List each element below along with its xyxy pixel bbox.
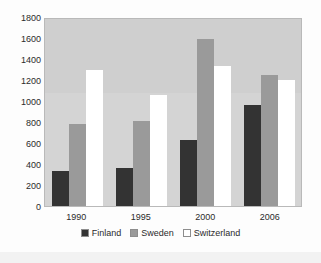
legend-entry-switzerland[interactable]: Switzerland [183, 228, 241, 238]
legend-label: Sweden [141, 228, 174, 238]
bar-finland-2000 [180, 140, 197, 206]
plot-area [44, 18, 302, 207]
legend-swatch-icon [183, 229, 191, 237]
bar-switzerland-1995 [150, 95, 167, 206]
bottom-strip [0, 252, 321, 263]
legend-label: Switzerland [194, 228, 241, 238]
y-tick-label: 1200 [0, 77, 41, 86]
bar-switzerland-2000 [214, 66, 231, 206]
bar-group-2006 [237, 19, 301, 206]
bars-layer [45, 19, 301, 206]
x-axis: 1990199520002006 [44, 210, 302, 226]
bar-finland-2006 [244, 105, 261, 206]
y-tick-label: 1400 [0, 56, 41, 65]
y-tick-label: 1600 [0, 35, 41, 44]
y-tick-label: 0 [0, 203, 41, 212]
bar-sweden-2006 [261, 75, 278, 206]
legend-entry-sweden[interactable]: Sweden [130, 228, 174, 238]
bar-group-1995 [109, 19, 173, 206]
bar-switzerland-1990 [86, 70, 103, 207]
y-tick-label: 400 [0, 161, 41, 170]
bar-sweden-1990 [69, 124, 86, 206]
x-tick-label: 2006 [238, 210, 303, 226]
y-tick-label: 200 [0, 182, 41, 191]
bar-group-1990 [45, 19, 109, 206]
chart-legend: FinlandSwedenSwitzerland [0, 228, 321, 238]
x-tick-label: 2000 [173, 210, 238, 226]
bar-sweden-2000 [197, 39, 214, 206]
y-tick-label: 1800 [0, 14, 41, 23]
bar-chart-figure: 180016001400120010008006004002000 199019… [0, 0, 321, 263]
bar-finland-1990 [52, 171, 69, 206]
x-tick-label: 1995 [109, 210, 174, 226]
x-tick-label: 1990 [44, 210, 109, 226]
legend-swatch-icon [130, 229, 138, 237]
bar-switzerland-2006 [278, 80, 295, 206]
y-tick-label: 1000 [0, 98, 41, 107]
y-tick-label: 600 [0, 140, 41, 149]
legend-swatch-icon [81, 229, 89, 237]
bar-finland-1995 [116, 168, 133, 206]
bar-sweden-1995 [133, 121, 150, 206]
bar-group-2000 [173, 19, 237, 206]
legend-label: Finland [92, 228, 122, 238]
y-tick-label: 800 [0, 119, 41, 128]
y-axis: 180016001400120010008006004002000 [0, 0, 41, 225]
legend-entry-finland[interactable]: Finland [81, 228, 122, 238]
